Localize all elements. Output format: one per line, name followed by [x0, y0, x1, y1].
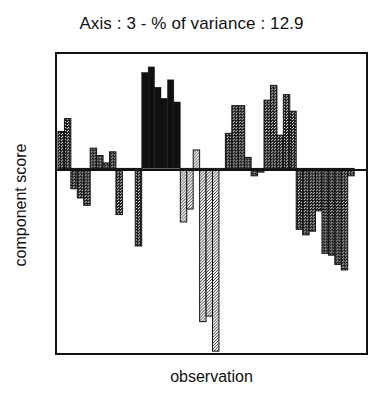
bar [109, 152, 115, 169]
bar [283, 95, 289, 169]
bar [148, 67, 154, 169]
bar [103, 163, 109, 169]
bar [135, 168, 141, 246]
bar [155, 87, 161, 168]
bar [193, 150, 199, 168]
zero-baseline [57, 169, 366, 171]
bar [245, 157, 251, 168]
bar [206, 168, 212, 316]
bar [90, 148, 96, 168]
bar [84, 168, 90, 205]
bar [238, 106, 244, 169]
bar [116, 168, 122, 214]
bar [232, 106, 238, 169]
chart-title: Axis : 3 - % of variance : 12.9 [0, 14, 383, 34]
bar [290, 111, 296, 168]
bar [58, 132, 64, 169]
bar-series [58, 67, 354, 351]
bar [322, 168, 328, 253]
bar [213, 168, 219, 351]
bar [309, 168, 315, 231]
bar [180, 168, 186, 222]
bar [64, 119, 70, 169]
bar [200, 168, 206, 321]
bar [225, 133, 231, 168]
bar [161, 98, 167, 168]
x-axis-label: observation [55, 368, 368, 386]
bar [97, 156, 103, 169]
bar [71, 168, 77, 188]
y-axis-label: component score [12, 90, 30, 320]
bar [335, 168, 341, 264]
bars-layer [57, 54, 366, 353]
bar [328, 168, 334, 255]
bar [167, 80, 173, 169]
chart-figure: Axis : 3 - % of variance : 12.9 [0, 0, 383, 409]
plot-area [55, 52, 368, 355]
bar [77, 168, 83, 198]
bar [264, 100, 270, 168]
bar [174, 102, 180, 168]
bar [296, 168, 302, 229]
bar [303, 168, 309, 234]
bar [142, 72, 148, 168]
bar [270, 85, 276, 168]
bar [341, 168, 347, 270]
bar [187, 168, 193, 209]
bar [316, 168, 322, 210]
bars-svg [57, 54, 366, 353]
bar [277, 135, 283, 168]
